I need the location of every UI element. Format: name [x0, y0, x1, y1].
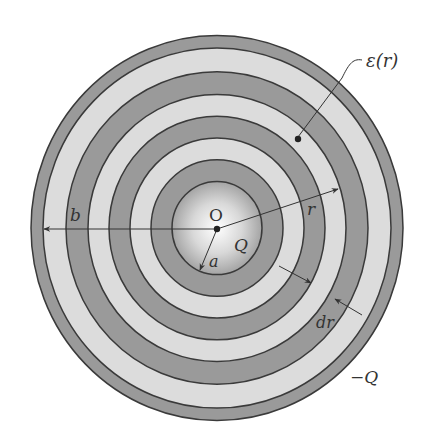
center-dot — [214, 226, 220, 232]
outer-charge-label: −Q — [350, 367, 378, 387]
radius-label: r — [307, 199, 316, 219]
inner-radius-label: a — [209, 252, 219, 271]
permittivity-label: ε(r) — [366, 50, 398, 71]
permittivity-point-dot — [295, 136, 301, 142]
outer-radius-label: b — [70, 205, 81, 225]
dielectric-sphere-diagram: ε(r) O Q a b r dr −Q — [0, 0, 428, 440]
thickness-label: dr — [316, 313, 335, 332]
center-label: O — [209, 205, 223, 225]
inner-charge-label: Q — [234, 235, 248, 255]
